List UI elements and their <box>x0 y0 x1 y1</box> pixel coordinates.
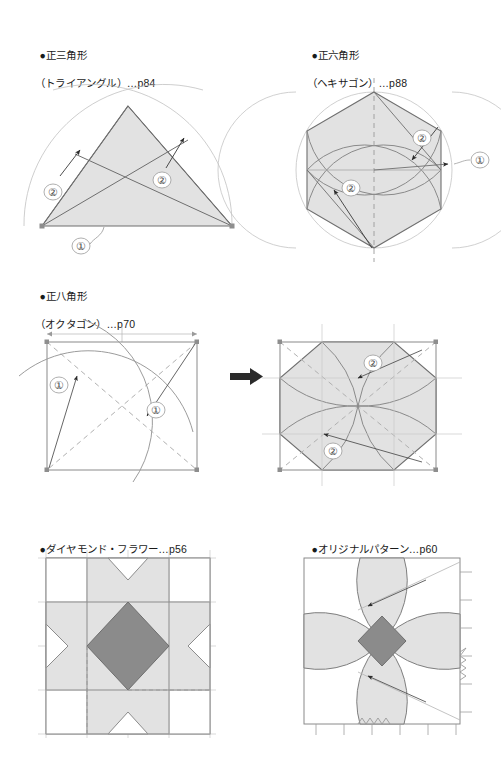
label-step-1-base: ① <box>72 238 90 254</box>
figure-hexagon: ② ② ① <box>262 72 497 267</box>
svg-text:①: ① <box>475 154 485 166</box>
svg-text:①: ① <box>76 240 86 252</box>
svg-text:②: ② <box>328 445 338 457</box>
label-step-2-left: ② <box>44 184 62 200</box>
figure-triangle: ② ② ① <box>18 80 258 260</box>
label-step-2-right: ② <box>153 172 171 188</box>
svg-text:②: ② <box>417 132 427 144</box>
svg-text:②: ② <box>48 186 58 198</box>
label-step-2-lower: ② <box>324 443 342 459</box>
section-title-octagon: 正八角形 <box>46 290 87 302</box>
svg-text:①: ① <box>54 379 64 391</box>
label-step-1-right: ① <box>471 152 489 168</box>
figure-diamond-flower <box>38 548 223 738</box>
label-step-1-left: ① <box>50 377 68 393</box>
section-title-triangle: 正三角形 <box>46 49 87 61</box>
svg-text:②: ② <box>157 174 167 186</box>
figure-octagon-step1: ① ① <box>25 320 235 490</box>
svg-text:①: ① <box>151 404 161 416</box>
figure-original-pattern <box>296 548 491 743</box>
label-step-2-upper: ② <box>413 130 431 146</box>
svg-text:②: ② <box>368 357 378 369</box>
section-title-hexagon: 正六角形 <box>318 49 359 61</box>
label-step-1-right: ① <box>147 402 165 418</box>
svg-text:②: ② <box>346 182 356 194</box>
zigzag-mark-right <box>460 648 466 680</box>
label-step-2-lower: ② <box>342 180 360 196</box>
pattern-reference-page: ●正三角形 （トライアングル）…p84 ●正六角形 （ヘキサゴン）…p88 ●正… <box>0 0 501 769</box>
transition-arrow-icon <box>230 366 264 388</box>
label-step-2-upper: ② <box>364 355 382 371</box>
figure-octagon-step2: ② ② <box>262 320 477 490</box>
